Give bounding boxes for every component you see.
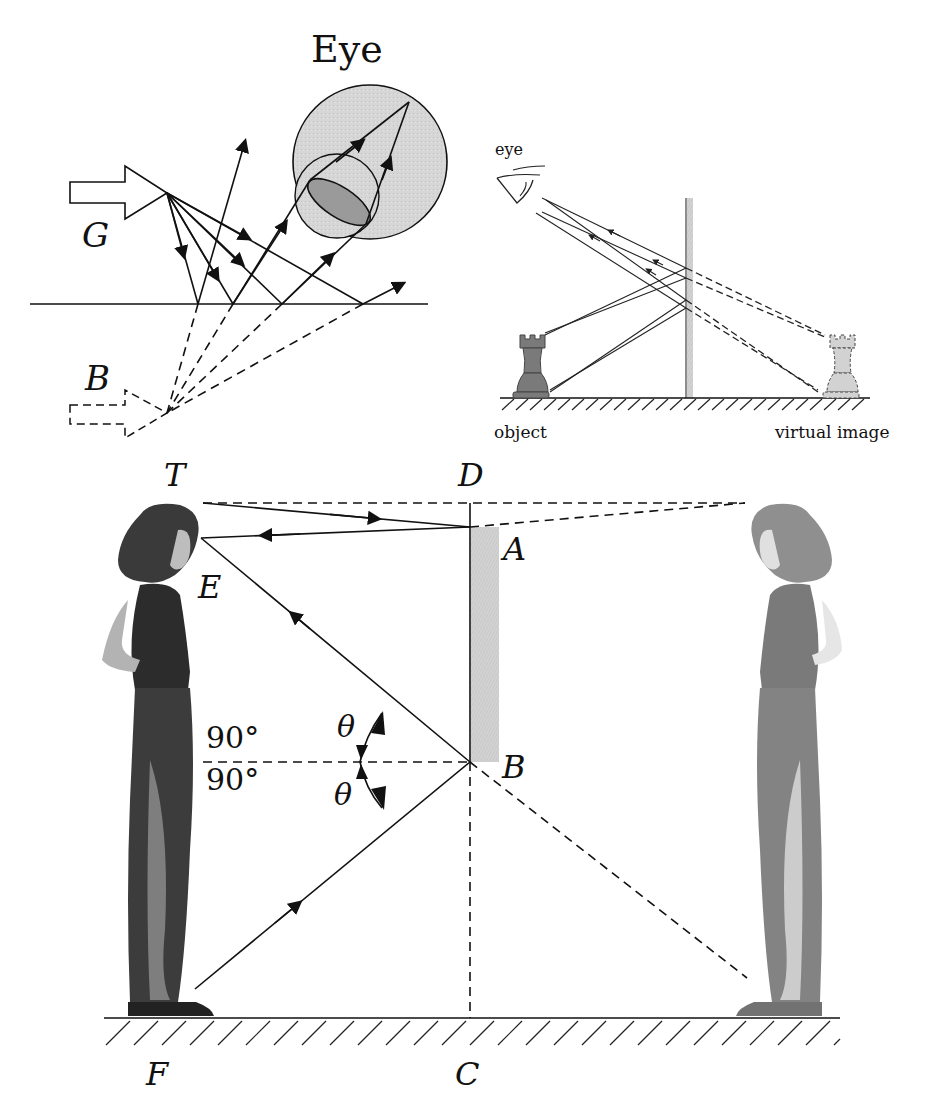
virtual-image-label: virtual image [774, 422, 890, 442]
virtual-rays [167, 304, 363, 413]
woman-mirror-image [736, 504, 842, 1016]
label-t: T [164, 456, 188, 494]
panel-reflection-eye: Eye G [30, 27, 447, 438]
label-d: D [457, 456, 484, 494]
label-f: F [145, 1055, 170, 1093]
angle-arcs [356, 711, 386, 810]
eye-icon [497, 166, 545, 203]
eye-label: eye [495, 140, 523, 159]
rook-object-icon [513, 335, 549, 398]
angle-90-upper: 90° [206, 720, 259, 755]
top-rays [201, 503, 470, 538]
theta-upper: θ [337, 709, 355, 744]
floor-hatch-main [106, 1021, 840, 1045]
panel-full-length-mirror: T D A E M B F C 90° 90° θ θ [102, 456, 842, 1093]
object-label: object [494, 422, 547, 442]
rook-virtual-image-icon [823, 335, 859, 398]
floor-hatch-small [502, 399, 864, 410]
panel-mirror-rook: eye [494, 140, 890, 442]
label-e: E [197, 568, 221, 606]
label-g: G [82, 215, 109, 255]
full-length-mirror [471, 527, 499, 762]
figure-canvas: Eye G [0, 0, 944, 1119]
label-a: A [500, 530, 526, 568]
rook-rays [536, 198, 825, 392]
label-b-virtual: B [84, 358, 110, 398]
label-b: B [501, 748, 526, 786]
label-c: C [455, 1055, 479, 1093]
eye-title: Eye [311, 27, 383, 71]
angle-90-lower: 90° [206, 762, 259, 797]
theta-lower: θ [334, 777, 352, 812]
eyeball-icon [293, 85, 447, 239]
source-arrow-icon [70, 166, 167, 219]
